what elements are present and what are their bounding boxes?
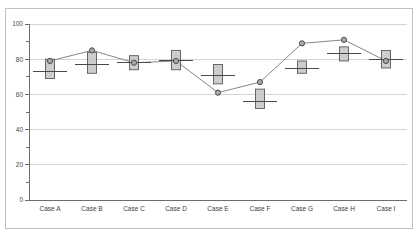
series-marker-case-h <box>341 37 346 42</box>
x-tick-label-case-i: Case I <box>377 205 396 212</box>
x-tick-label-case-c: Case C <box>123 205 145 212</box>
series-marker-case-g <box>299 41 304 46</box>
boxplot-chart: 020406080100 Case ACase BCase CCase DCas… <box>0 0 418 235</box>
box-iqr-rect <box>298 61 307 73</box>
x-tick-labels: Case ACase BCase CCase DCase ECase FCase… <box>40 205 396 212</box>
y-tick-label-0: 0 <box>19 196 23 203</box>
x-tick-label-case-h: Case H <box>333 205 355 212</box>
series-marker-case-a <box>47 58 52 63</box>
series-marker-case-d <box>173 58 178 63</box>
x-tick-label-case-b: Case B <box>81 205 102 212</box>
series-marker-case-f <box>257 79 262 84</box>
y-tick-label-60: 60 <box>16 91 24 98</box>
y-tick-label-100: 100 <box>12 20 23 27</box>
series-marker-case-c <box>131 60 136 65</box>
x-tick-label-case-e: Case E <box>207 205 229 212</box>
y-tick-label-80: 80 <box>16 56 24 63</box>
series-marker-case-b <box>89 48 94 53</box>
box-iqr-rect <box>214 64 223 83</box>
y-tick-label-20: 20 <box>16 161 24 168</box>
box-iqr-rect <box>88 52 97 73</box>
x-tick-label-case-a: Case A <box>40 205 62 212</box>
chart-canvas: 020406080100 Case ACase BCase CCase DCas… <box>0 0 418 235</box>
x-tick-label-case-g: Case G <box>291 205 313 212</box>
series-marker-case-e <box>215 90 220 95</box>
x-tick-label-case-f: Case F <box>250 205 271 212</box>
y-tick-label-40: 40 <box>16 126 24 133</box>
series-marker-case-i <box>383 58 388 63</box>
box-iqr-rect <box>256 89 265 108</box>
x-tick-label-case-d: Case D <box>165 205 187 212</box>
